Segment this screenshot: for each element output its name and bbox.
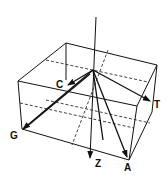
label-g: G (10, 130, 18, 141)
vector-a-side (93, 70, 103, 140)
box-solid-edges (18, 43, 157, 160)
vector-a (93, 70, 127, 157)
label-z: Z (95, 158, 101, 169)
vector-t (93, 70, 150, 101)
label-a: A (124, 162, 131, 173)
vector-c (68, 70, 93, 85)
label-t: T (154, 99, 160, 110)
label-c: C (56, 79, 63, 90)
vector-box-diagram: C G T A Z (0, 0, 168, 178)
